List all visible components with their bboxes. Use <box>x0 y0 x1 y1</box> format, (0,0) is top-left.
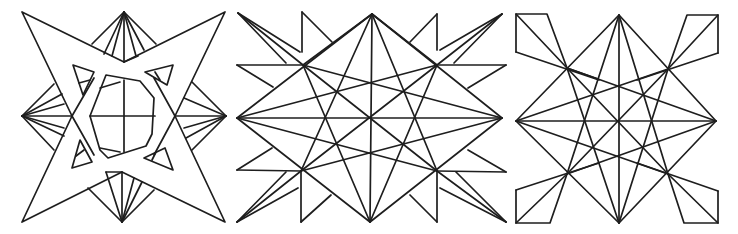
kite-top-left <box>516 14 599 80</box>
figure-canvas <box>0 0 738 234</box>
fan-bottom <box>88 172 154 222</box>
spike-top-right <box>410 14 506 88</box>
fan-left <box>22 84 72 150</box>
fan-top <box>92 12 156 62</box>
kite-bottom-right <box>637 163 718 223</box>
panel-2-star-lattice <box>237 12 506 222</box>
panel-1-star-octagon <box>22 12 226 222</box>
panel-3-kite-lattice <box>516 14 718 223</box>
fan-right <box>175 82 226 150</box>
triangle-tr <box>145 65 173 85</box>
triangle-bl <box>72 140 92 168</box>
triangle-br <box>144 148 173 170</box>
kite-bottom-left <box>516 163 599 223</box>
